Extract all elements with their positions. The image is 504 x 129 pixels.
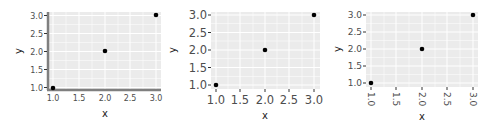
svg-text:1.0: 1.0 [366,92,376,107]
x-axis-title: x [262,110,268,121]
svg-text:2.5: 2.5 [124,94,137,103]
svg-text:1.5: 1.5 [73,94,86,103]
svg-text:1.0: 1.0 [207,93,225,107]
svg-text:2.0: 2.0 [189,43,207,57]
svg-text:1.0: 1.0 [47,94,60,103]
svg-text:1.5: 1.5 [189,61,207,75]
svg-text:1.5: 1.5 [30,66,43,75]
svg-text:2.0: 2.0 [417,92,427,107]
y-axis-title: y [332,46,343,52]
svg-text:2.0: 2.0 [256,93,274,107]
svg-text:3.0: 3.0 [150,94,163,103]
plot-2: 3.0 2.5 2.0 1.5 1.0 1.0 1.5 2.0 2.5 3.0 … [167,8,323,121]
plot-3: 3.0 2.5 2.0 1.5 1.0 1.0 1.5 2.0 2.5 3.0 … [332,10,478,122]
svg-text:3.0: 3.0 [348,10,363,20]
plot-1: 3.0 2.5 2.0 1.5 1.0 1.0 1.5 2.0 2.5 3.0 … [13,12,162,120]
svg-text:1.0: 1.0 [348,78,363,88]
svg-text:1.5: 1.5 [231,93,249,107]
svg-text:2.5: 2.5 [348,27,362,37]
y-axis-title: y [167,47,178,53]
x-axis-title: x [102,108,108,119]
svg-text:2.0: 2.0 [99,94,112,103]
svg-text:2.5: 2.5 [442,92,452,106]
svg-text:3.0: 3.0 [305,93,323,107]
x-axis-title: x [419,111,425,122]
svg-text:1.5: 1.5 [391,92,401,106]
svg-text:2.5: 2.5 [189,26,207,40]
svg-text:2.0: 2.0 [348,44,363,54]
svg-text:2.0: 2.0 [30,48,43,57]
svg-text:3.0: 3.0 [189,8,207,22]
svg-text:1.5: 1.5 [348,61,362,71]
svg-text:2.5: 2.5 [30,30,43,39]
svg-text:1.0: 1.0 [189,78,207,92]
svg-text:1.0: 1.0 [30,84,43,93]
svg-text:2.5: 2.5 [280,93,298,107]
svg-text:3.0: 3.0 [30,12,43,21]
y-axis-title: y [13,48,24,54]
plots: 3.0 2.5 2.0 1.5 1.0 1.0 1.5 2.0 2.5 3.0 … [0,0,504,129]
svg-text:3.0: 3.0 [468,92,478,107]
